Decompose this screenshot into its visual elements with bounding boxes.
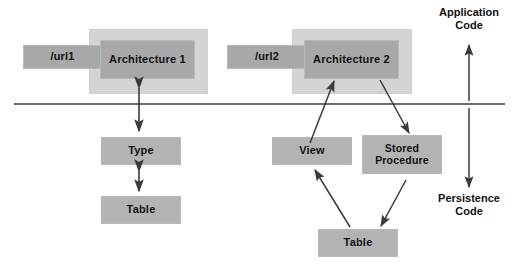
- url2-label: /url2: [255, 51, 279, 63]
- view-box: View: [272, 137, 352, 165]
- stored-procedure-label: Stored Procedure: [363, 143, 441, 166]
- table-to-view-connector: [315, 170, 350, 227]
- url2-box: /url2: [227, 45, 307, 69]
- architecture-1-box: Architecture 1: [100, 40, 195, 79]
- table-right-label: Table: [344, 237, 373, 249]
- application-code-line-1: Application: [424, 6, 514, 19]
- architecture-1-label: Architecture 1: [109, 54, 186, 66]
- architecture-2-box: Architecture 2: [304, 40, 399, 79]
- type-box: Type: [101, 137, 181, 165]
- persistence-code-line-2: Code: [424, 205, 514, 218]
- stored-procedure-box: Stored Procedure: [362, 135, 442, 174]
- diagram-canvas: /url1 Architecture 1 /url2 Architecture …: [0, 0, 518, 270]
- stored-procedure-to-table-connector: [381, 180, 406, 226]
- table-left-label: Table: [127, 204, 156, 216]
- table-right-box: Table: [318, 229, 398, 257]
- application-code-line-2: Code: [424, 19, 514, 32]
- architecture-2-label: Architecture 2: [313, 54, 390, 66]
- persistence-code-line-1: Persistence: [424, 192, 514, 205]
- table-left-box: Table: [101, 196, 181, 224]
- application-code-label: Application Code: [424, 6, 514, 31]
- persistence-code-label: Persistence Code: [424, 192, 514, 217]
- type-label: Type: [128, 145, 154, 157]
- url1-label: /url1: [50, 51, 74, 63]
- url1-box: /url1: [23, 45, 102, 69]
- view-label: View: [299, 145, 325, 157]
